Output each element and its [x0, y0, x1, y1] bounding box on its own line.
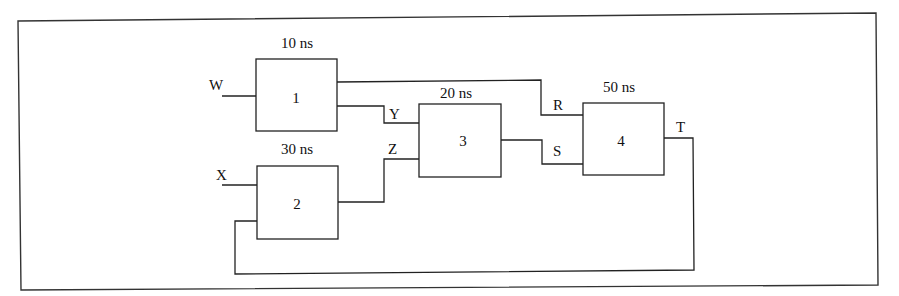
block-1-label: 1 [292, 90, 300, 106]
circuit-diagram: 1 10 ns 2 30 ns 3 20 ns 4 50 ns W X Y Z … [0, 0, 899, 296]
signal-t-label: T [676, 119, 685, 135]
wire-y [337, 106, 419, 123]
wire-s [501, 140, 583, 164]
block-3: 3 20 ns [419, 85, 501, 177]
wire-z [338, 159, 419, 202]
signal-y-label: Y [389, 106, 400, 122]
block-2-label: 2 [293, 196, 301, 212]
block-1-delay: 10 ns [281, 35, 313, 51]
signal-z-label: Z [388, 141, 397, 157]
block-2: 2 30 ns [257, 141, 338, 239]
block-3-label: 3 [459, 133, 467, 149]
signal-w-label: W [209, 77, 224, 93]
signal-r-label: R [553, 97, 563, 113]
signal-x-label: X [216, 167, 227, 183]
block-2-delay: 30 ns [281, 141, 313, 157]
signal-s-label: S [553, 143, 561, 159]
block-4-delay: 50 ns [603, 79, 635, 95]
block-4-label: 4 [617, 133, 625, 149]
block-1: 1 10 ns [256, 35, 337, 131]
block-3-delay: 20 ns [440, 85, 472, 101]
block-4: 4 50 ns [583, 79, 664, 175]
